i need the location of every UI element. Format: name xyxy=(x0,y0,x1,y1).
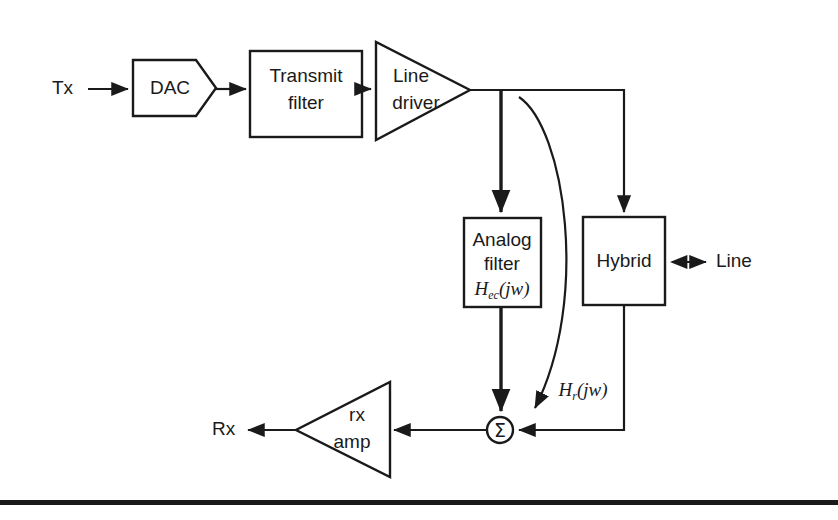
analog-filter-subscript: ec xyxy=(488,288,499,302)
echo-arg: (jw) xyxy=(577,379,608,401)
analog-filter-arg: (jw) xyxy=(499,278,530,300)
block-analog-filter-label-line2: filter xyxy=(484,253,521,274)
block-dac-label: DAC xyxy=(150,77,190,98)
signal-label-rx: Rx xyxy=(212,418,236,439)
block-hybrid-label: Hybrid xyxy=(597,250,652,271)
block-transmit-filter-label-line2: filter xyxy=(288,92,325,113)
signal-label-tx: Tx xyxy=(52,77,74,98)
annotation-echo-transfer-function: Hr(jw) xyxy=(557,379,607,402)
summing-node-sigma-glyph: Σ xyxy=(494,419,506,441)
echo-h: H xyxy=(557,379,573,400)
figure-canvas: Tx DAC Transmit filter Line driver Analo… xyxy=(0,0,838,520)
wire-hybrid-to-summer xyxy=(519,305,624,430)
svg-text:Hec(jw): Hec(jw) xyxy=(474,278,530,301)
block-line-driver-label-line1: Line xyxy=(393,65,429,86)
block-line-driver[interactable] xyxy=(376,42,470,140)
wire-line-driver-to-hybrid xyxy=(470,90,624,212)
analog-filter-h: H xyxy=(474,278,490,299)
block-line-driver-label-line2: driver xyxy=(392,92,440,113)
block-analog-filter-label-line1: Analog xyxy=(472,229,531,250)
svg-text:Hr(jw): Hr(jw) xyxy=(557,379,607,402)
block-transmit-filter-label-line1: Transmit xyxy=(269,65,343,86)
footer-rule xyxy=(0,500,838,505)
block-diagram: Tx DAC Transmit filter Line driver Analo… xyxy=(0,0,838,520)
block-rx-amp-label-line2: amp xyxy=(334,431,371,452)
block-rx-amp-label-line1: rx xyxy=(349,404,365,425)
block-analog-filter-transfer-function: Hec(jw) xyxy=(474,278,530,301)
block-rx-amp[interactable] xyxy=(296,382,390,477)
signal-label-line: Line xyxy=(716,250,752,271)
